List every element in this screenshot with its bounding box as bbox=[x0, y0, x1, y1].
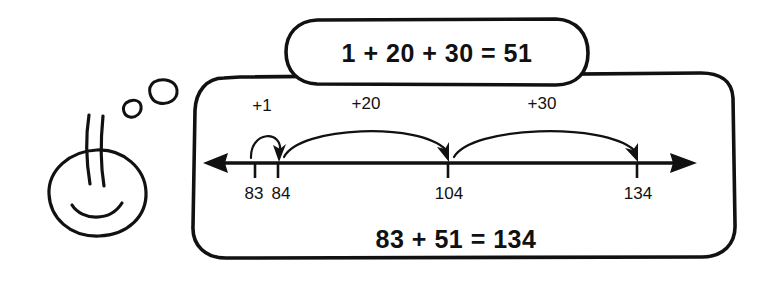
jump-label-plus-20: +20 bbox=[352, 94, 381, 113]
diagram-canvas: 1 + 20 + 30 = 51 83 84 104 134 bbox=[0, 0, 774, 281]
tick-label-83: 83 bbox=[245, 184, 264, 203]
tick-label-104: 104 bbox=[435, 184, 463, 203]
jump-label-plus-1: +1 bbox=[252, 96, 271, 115]
thinking-doodle-face bbox=[49, 80, 177, 236]
jump-label-plus-30: +30 bbox=[528, 94, 557, 113]
thought-puff-small bbox=[123, 100, 141, 117]
main-equation-text: 83 + 51 = 134 bbox=[376, 225, 537, 253]
head-outline bbox=[49, 150, 146, 236]
smile bbox=[72, 203, 122, 217]
top-equation-text: 1 + 20 + 30 = 51 bbox=[342, 39, 533, 67]
thought-puff-large bbox=[150, 80, 177, 104]
tick-label-84: 84 bbox=[272, 184, 291, 203]
tick-label-134: 134 bbox=[624, 184, 652, 203]
